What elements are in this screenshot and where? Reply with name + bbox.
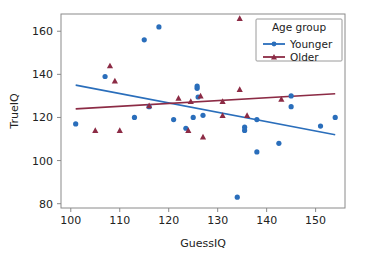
legend-label-older: Older	[290, 51, 319, 63]
y-tick-label: 120	[32, 111, 53, 124]
legend-title: Age group	[272, 21, 326, 33]
chart-canvas: 10011012013014015080100120140160GuessIQT…	[0, 0, 365, 254]
x-tick-label: 140	[256, 214, 277, 227]
data-point-younger	[242, 128, 247, 133]
x-tick-label: 150	[305, 214, 326, 227]
data-point-younger	[142, 37, 147, 42]
data-point-younger	[73, 121, 78, 126]
data-point-younger	[200, 113, 205, 118]
legend-label-younger: Younger	[289, 38, 333, 50]
scatter-plot-figure: 10011012013014015080100120140160GuessIQT…	[0, 0, 365, 254]
data-point-younger	[156, 24, 161, 29]
data-point-younger	[102, 74, 107, 79]
data-point-younger	[254, 149, 259, 154]
data-point-younger	[132, 115, 137, 120]
x-axis-title: GuessIQ	[180, 237, 226, 250]
data-point-younger	[289, 93, 294, 98]
data-point-younger	[276, 141, 281, 146]
x-tick-label: 130	[207, 214, 228, 227]
data-point-younger	[318, 123, 323, 128]
legend-symbol-younger	[272, 42, 277, 47]
y-tick-label: 100	[32, 155, 53, 168]
y-tick-label: 140	[32, 68, 53, 81]
x-tick-label: 110	[109, 214, 130, 227]
data-point-younger	[254, 117, 259, 122]
data-point-younger	[333, 115, 338, 120]
data-point-younger	[235, 195, 240, 200]
y-axis-title: TrueIQ	[8, 93, 21, 130]
y-tick-label: 80	[39, 198, 53, 211]
y-tick-label: 160	[32, 25, 53, 38]
data-point-younger	[171, 117, 176, 122]
data-point-younger	[289, 104, 294, 109]
x-tick-label: 100	[60, 214, 81, 227]
data-point-younger	[195, 84, 200, 89]
x-tick-label: 120	[158, 214, 179, 227]
data-point-younger	[191, 115, 196, 120]
